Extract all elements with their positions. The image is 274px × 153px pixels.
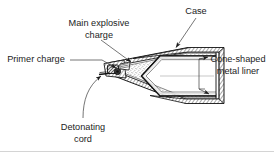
label-cone-shaped-metal-liner-line2: metal liner	[217, 66, 259, 76]
label-primer-charge: Primer charge	[7, 54, 65, 64]
label-detonating-cord-line1: Detonating	[61, 122, 105, 132]
label-detonating-cord-line2: cord	[74, 134, 92, 144]
label-main-explosive-charge-line2: charge	[85, 30, 113, 40]
figure-root: Case Main explosive charge Primer charge…	[0, 0, 274, 153]
label-case: Case	[185, 6, 206, 16]
device-body	[99, 48, 224, 104]
label-cone-shaped-metal-liner-line1: Cone-shaped	[210, 54, 265, 64]
leader-detonating-cord	[83, 76, 101, 118]
shaped-charge-diagram: Case Main explosive charge Primer charge…	[0, 0, 274, 153]
leader-main-explosive-charge	[101, 40, 131, 62]
label-main-explosive-charge-line1: Main explosive	[69, 18, 130, 28]
primer-charge-assembly	[99, 60, 130, 78]
leader-case	[176, 18, 196, 48]
